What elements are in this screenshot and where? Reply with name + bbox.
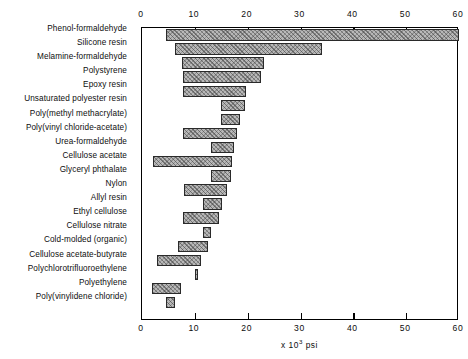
axis-tick-label: 0 <box>124 323 158 333</box>
range-bar <box>195 269 198 280</box>
range-bar <box>221 100 245 111</box>
range-bar <box>166 297 175 308</box>
bar-series <box>142 28 457 319</box>
axis-tick-label: 50 <box>388 9 422 19</box>
x-axis-title: x 103 psi <box>141 338 458 350</box>
category-label: Polyethylene <box>0 276 133 290</box>
bar-row <box>142 113 457 127</box>
bar-row <box>142 127 457 141</box>
bar-row <box>142 183 457 197</box>
axis-tick-label: 60 <box>441 9 468 19</box>
category-label: Nylon <box>0 177 133 191</box>
range-bar <box>211 142 235 153</box>
axis-tick-label: 20 <box>230 323 264 333</box>
range-bar <box>184 184 226 195</box>
axis-tick-label: 20 <box>230 9 264 19</box>
category-label: Silicone resin <box>0 36 133 50</box>
axis-tick-label: 0 <box>124 9 158 19</box>
category-label: Polystyrene <box>0 64 133 78</box>
range-bar <box>157 255 201 266</box>
range-bar <box>183 71 261 82</box>
category-label: Epoxy resin <box>0 78 133 92</box>
range-bar <box>178 241 208 252</box>
category-label: Cellulose acetate-butyrate <box>0 248 133 262</box>
axis-tick-label: 50 <box>388 323 422 333</box>
bar-row <box>142 296 457 310</box>
range-bar <box>183 128 237 139</box>
axis-tick-label: 30 <box>283 323 317 333</box>
bar-row <box>142 56 457 70</box>
bar-row <box>142 169 457 183</box>
axis-tick-label: 40 <box>335 9 369 19</box>
axis-tick-label: 40 <box>335 323 369 333</box>
range-bar <box>183 212 218 223</box>
range-bar <box>182 57 264 68</box>
category-label: Allyl resin <box>0 191 133 205</box>
category-label: Cold-molded (organic) <box>0 233 133 247</box>
axis-tick <box>353 313 354 319</box>
category-label: Unsaturated polyester resin <box>0 92 133 106</box>
axis-tick-label: 10 <box>177 9 211 19</box>
category-label: Cellulose nitrate <box>0 219 133 233</box>
category-label: Poly(methyl methacrylate) <box>0 107 133 121</box>
bar-row <box>142 211 457 225</box>
bar-row <box>142 42 457 56</box>
axis-tick-label: 60 <box>441 323 468 333</box>
category-axis-labels: Phenol-formaldehydeSilicone resinMelamin… <box>0 22 133 304</box>
bar-row <box>142 98 457 112</box>
range-bar <box>221 114 239 125</box>
bar-row <box>142 84 457 98</box>
category-label: Cellulose acetate <box>0 149 133 163</box>
axis-tick-label: 30 <box>283 9 317 19</box>
range-bar <box>152 283 182 294</box>
bar-row <box>142 225 457 239</box>
category-label: Melamine-formaldehyde <box>0 50 133 64</box>
axis-tick <box>301 313 302 319</box>
category-label: Polychlorotrifluoroethylene <box>0 262 133 276</box>
bar-row <box>142 239 457 253</box>
range-bar <box>203 227 211 238</box>
range-bar <box>183 86 246 97</box>
bar-row <box>142 28 457 42</box>
range-bar <box>153 156 232 167</box>
axis-tick <box>248 313 249 319</box>
category-label: Ethyl cellulose <box>0 205 133 219</box>
bar-row <box>142 70 457 84</box>
range-bar <box>166 29 459 40</box>
range-bar <box>211 170 231 181</box>
bar-row <box>142 155 457 169</box>
axis-tick-label: 10 <box>177 323 211 333</box>
category-label: Poly(vinylidene chloride) <box>0 290 133 304</box>
category-label: Urea-formaldehyde <box>0 135 133 149</box>
axis-tick <box>406 313 407 319</box>
plot-area <box>141 27 458 320</box>
category-label: Poly(vinyl chloride-acetate) <box>0 121 133 135</box>
axis-tick <box>195 313 196 319</box>
range-bar <box>175 43 321 54</box>
bar-row <box>142 268 457 282</box>
bar-row <box>142 282 457 296</box>
category-label: Phenol-formaldehyde <box>0 22 133 36</box>
range-bar <box>203 198 223 209</box>
bar-row <box>142 141 457 155</box>
tensile-strength-range-chart: Phenol-formaldehydeSilicone resinMelamin… <box>0 0 468 359</box>
category-label: Glyceryl phthalate <box>0 163 133 177</box>
bar-row <box>142 197 457 211</box>
bar-row <box>142 254 457 268</box>
